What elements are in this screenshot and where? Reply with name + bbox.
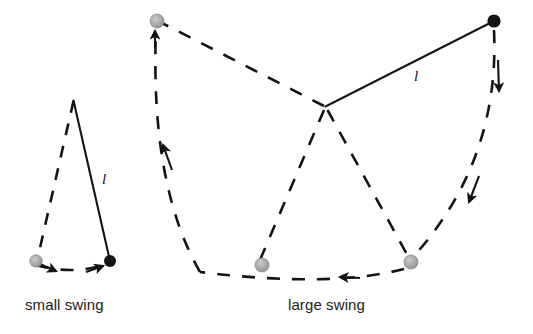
pendulum-svg	[0, 0, 533, 334]
large-swing-bottom-arc	[200, 269, 404, 279]
large-swing-arrow-down-2	[469, 176, 479, 202]
large-swing-rod-lower-right	[328, 110, 410, 258]
large-swing-arrow-left	[340, 277, 360, 278]
large-swing-left-arc	[155, 30, 200, 272]
large-swing-arrow-down-1	[498, 60, 499, 91]
large-swing-rod	[326, 22, 494, 107]
large-swing-rod-extreme-left	[160, 22, 324, 106]
large-swing-diagram	[150, 14, 501, 279]
small-swing-end-bob	[104, 255, 116, 267]
large-swing-rod-lower-left	[260, 110, 324, 260]
small-swing-rod-extreme	[37, 101, 74, 261]
small-swing-caption: small swing	[25, 296, 104, 313]
large-swing-caption: large swing	[288, 296, 365, 313]
small-swing-start-bob	[30, 255, 42, 267]
large-swing-right-arc	[414, 30, 494, 256]
large-swing-mid-left-bob	[255, 258, 269, 272]
large-swing-end-bob	[487, 14, 500, 27]
pendulum-figure: l l small swing large swing	[0, 0, 533, 334]
large-swing-mid-right-bob	[404, 255, 418, 269]
large-swing-length-label: l	[414, 68, 418, 85]
large-swing-start-bob	[150, 14, 164, 28]
small-swing-length-label: l	[102, 171, 106, 188]
